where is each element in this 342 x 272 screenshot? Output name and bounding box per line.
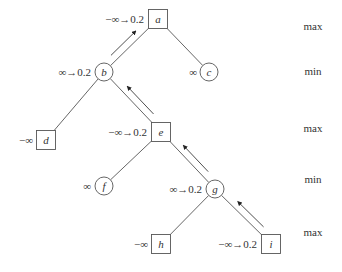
node-c: c∞	[189, 63, 218, 81]
node-name: d	[43, 134, 49, 146]
node-e: e−∞→0.2	[108, 123, 170, 142]
level-label-min: min	[304, 173, 322, 185]
node-i: i−∞→0.2	[218, 235, 280, 254]
level-label-max: max	[304, 122, 323, 134]
node-name: h	[158, 238, 164, 250]
node-a: a−∞→0.2	[105, 10, 167, 29]
edge-e-f	[111, 141, 152, 180]
node-name: g	[212, 183, 218, 195]
node-value: −∞	[19, 134, 33, 146]
node-value: −∞→0.2	[105, 13, 144, 25]
edge-a-b	[110, 28, 148, 65]
node-b: b∞→0.2	[58, 63, 113, 81]
edge-e-g	[170, 142, 209, 183]
edge-b-d	[54, 79, 98, 131]
level-labels: maxminmaxminmax	[304, 20, 323, 238]
edge-g-h	[170, 195, 208, 234]
node-value: −∞	[134, 238, 148, 250]
arrow-b-to-a	[111, 31, 136, 55]
game-tree-diagram: a−∞→0.2b∞→0.2c∞d−∞e−∞→0.2f∞g∞→0.2h−∞i−∞→…	[0, 0, 342, 272]
level-label-max: max	[304, 226, 323, 238]
edge-g-i	[221, 195, 261, 234]
node-value: ∞→0.2	[169, 183, 202, 195]
level-label-max: max	[304, 20, 323, 32]
node-value: ∞	[189, 66, 197, 78]
edge-b-e	[110, 79, 152, 123]
node-h: h−∞	[134, 235, 171, 254]
node-value: ∞→0.2	[58, 66, 91, 78]
tree-nodes: a−∞→0.2b∞→0.2c∞d−∞e−∞→0.2f∞g∞→0.2h−∞i−∞→…	[19, 10, 281, 254]
level-label-min: min	[304, 65, 322, 77]
node-value: −∞→0.2	[218, 238, 257, 250]
node-name: a	[155, 13, 161, 25]
node-f: f∞	[83, 177, 113, 195]
node-d: d−∞	[19, 131, 56, 150]
node-name: b	[101, 66, 107, 78]
node-value: ∞	[83, 180, 91, 192]
arrow-i-to-g	[238, 202, 264, 227]
node-name: i	[269, 238, 272, 250]
edge-a-c	[167, 29, 203, 66]
node-g: g∞→0.2	[169, 180, 224, 198]
node-name: e	[159, 126, 164, 138]
node-name: c	[207, 66, 212, 78]
node-value: −∞→0.2	[108, 126, 147, 138]
arrow-g-to-e	[183, 145, 208, 171]
